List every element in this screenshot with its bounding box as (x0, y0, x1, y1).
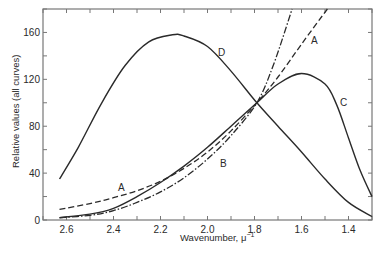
spectral-chart: 2.62.42.22.01.81.61.404080120160 A A B C… (0, 0, 386, 257)
curve-label-a-bottom: A (118, 182, 125, 193)
y-tick-label: 160 (23, 27, 40, 38)
curve-label-c: C (340, 97, 347, 108)
y-tick-label: 0 (34, 215, 40, 226)
x-axis-title: Wavenumber, μ−1 (180, 231, 254, 243)
x-tick-label: 2.2 (154, 224, 168, 235)
axis-ticks (43, 9, 372, 220)
x-tick-label: 2.4 (107, 224, 121, 235)
curve-d-solid (60, 34, 373, 216)
y-tick-label: 40 (29, 168, 41, 179)
x-tick-label: 1.6 (295, 224, 309, 235)
curve-label-d: D (218, 47, 225, 58)
axis-tick-labels: 2.62.42.22.01.81.61.404080120160 (23, 27, 356, 235)
curve-label-a-top: A (311, 35, 318, 46)
x-axis-title-superscript: −1 (246, 231, 254, 238)
y-tick-label: 80 (29, 121, 41, 132)
plot-frame (43, 9, 372, 220)
y-axis-title: Relative values (all curves) (10, 54, 21, 168)
x-tick-label: 1.4 (342, 224, 356, 235)
x-axis-title-main: Wavenumber, μ (180, 232, 246, 243)
curve-label-b: B (220, 158, 227, 169)
x-tick-label: 2.6 (60, 224, 74, 235)
curve-b-dash-dot (60, 9, 293, 218)
y-tick-label: 120 (23, 74, 40, 85)
